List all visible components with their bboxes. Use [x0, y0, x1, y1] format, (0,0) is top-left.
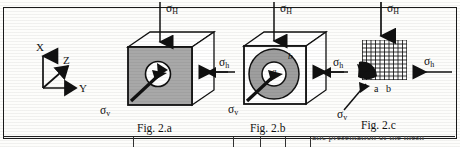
caption-fig-2b: Fig. 2.b	[250, 122, 285, 134]
fig-2c-group	[357, 40, 407, 80]
label-sigma-H-a: σH	[166, 2, 178, 16]
annulus-label-a: a	[272, 66, 277, 76]
axis-label-y: Y	[79, 82, 87, 94]
mesh-label-b: b	[386, 83, 391, 94]
label-sigma-h-a: σh	[219, 56, 229, 70]
label-sigma-H-c: σH	[387, 2, 399, 16]
label-sigma-H-b: σH	[280, 2, 292, 16]
axis-label-z: Z	[63, 54, 70, 66]
label-sigma-v-a: σv	[100, 104, 110, 118]
caption-fig-2a: Fig. 2.a	[137, 122, 172, 134]
stress-arrow-sigmav-c	[344, 82, 370, 110]
annulus-label-b: b	[288, 51, 293, 61]
scanned-figure-page: atic presentation of the mesh	[0, 0, 460, 147]
axis-label-x: X	[36, 41, 44, 53]
fig-2a-group	[128, 32, 214, 105]
caption-fig-2c: Fig. 2.c	[361, 119, 396, 131]
label-sigma-v-b: σv	[228, 103, 238, 117]
label-sigma-v-c: σv	[337, 108, 347, 122]
label-sigma-h-c: σh	[424, 55, 434, 69]
label-sigma-h-b: σh	[333, 56, 343, 70]
fig-2b-group	[244, 32, 326, 104]
mesh-label-a: a	[374, 83, 378, 94]
coordinate-axes	[43, 56, 76, 88]
